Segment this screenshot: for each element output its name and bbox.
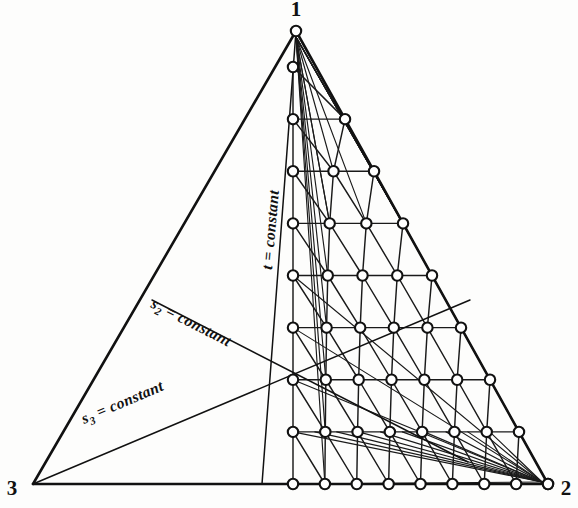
lattice-node (288, 166, 298, 176)
lattice-node (389, 322, 399, 332)
right-fan-line (315, 432, 542, 482)
lattice-node (288, 218, 298, 228)
vertex-label-3: 3 (7, 476, 18, 500)
lattice-node (321, 375, 331, 385)
apex-fan-line (296, 37, 328, 276)
lattice-node (386, 375, 396, 385)
vertex-label-1: 1 (291, 0, 302, 21)
diagram-canvas: t = constants2 = constants3 = constant 1… (0, 0, 578, 508)
lattice-grid-line (360, 276, 362, 328)
lattice-node (419, 375, 429, 385)
lattice-node (422, 322, 432, 332)
lattice-grid-line (326, 328, 327, 380)
lattice-grid-line (424, 328, 427, 380)
lattice-grid-line (487, 432, 516, 484)
lattice-node (415, 479, 425, 489)
ternary-diagram-figure: t = constants2 = constants3 = constant 1… (0, 0, 578, 508)
lattice-grid-line (330, 171, 334, 223)
lattice-grid-line (487, 380, 490, 432)
lattice-node (288, 427, 298, 437)
lattice-node (479, 479, 489, 489)
lattice-node (456, 322, 466, 332)
lattice-grid-line (422, 432, 452, 484)
vertex-node (543, 479, 553, 489)
edge-1-3 (33, 31, 296, 484)
lattice-grid-line (363, 223, 367, 275)
lattice-node (352, 427, 362, 437)
lattice-node (288, 375, 298, 385)
lattice-node (369, 166, 379, 176)
lattice-node (449, 427, 459, 437)
lattice-node (511, 479, 521, 489)
lattice-node (361, 218, 371, 228)
lattice-node (447, 479, 457, 489)
right-fan-line (359, 432, 542, 482)
lattice-grid-line (357, 432, 358, 484)
lattice-node (288, 479, 298, 489)
lattice-node (385, 427, 395, 437)
lattice-grid-line (422, 380, 424, 432)
lattice-grid-line (293, 380, 325, 432)
lattice-grid-line (392, 380, 423, 432)
lattice-node (353, 375, 363, 385)
lattice-node (392, 270, 402, 280)
lattice-node (485, 375, 495, 385)
lattice-grid-line (392, 328, 394, 380)
lattice-grid-line (397, 223, 403, 275)
lattice-grid-line (358, 432, 389, 484)
lattice-node (340, 114, 350, 124)
lattice-node (514, 427, 524, 437)
lattice-node (452, 375, 462, 385)
lattice-grid-line (394, 276, 397, 328)
vertex-label-2: 2 (561, 476, 572, 500)
s2-line-label: s2 = constant (146, 294, 234, 352)
lattice-grid-line (328, 223, 330, 275)
lattice-grid-line (427, 328, 457, 380)
apex-fan-line (296, 37, 325, 484)
lattice-node (288, 270, 298, 280)
lattice-grid-line (330, 223, 363, 275)
lattice-grid-line (421, 432, 423, 484)
lattice-grid-line (327, 276, 328, 328)
lattice-grid-line (366, 223, 397, 275)
coordinate-label-group: t = constants2 = constants3 = constant (78, 189, 282, 430)
lattice-grid-line (328, 276, 360, 328)
lattice-node (383, 479, 393, 489)
lattice-node (398, 218, 408, 228)
edge-1-2 (296, 31, 548, 484)
lattice-grid-line (363, 276, 394, 328)
lattice-node (357, 270, 367, 280)
lattice-node (427, 270, 437, 280)
lattice-node (288, 322, 298, 332)
lattice-node (328, 166, 338, 176)
lattice-grid-line (326, 380, 358, 432)
lattice-node (417, 427, 427, 437)
lattice-node (482, 427, 492, 437)
lattice-node (320, 427, 330, 437)
vertex-node (291, 26, 301, 36)
lattice-grid-line (359, 380, 390, 432)
lattice-grid-line (325, 380, 326, 432)
lattice-node (320, 479, 330, 489)
lattice-grid-line (366, 171, 374, 223)
lattice-node (352, 479, 362, 489)
lattice-grid-line (359, 328, 361, 380)
lattice-grid-line (293, 432, 325, 484)
lattice-grid-line (457, 328, 461, 380)
lattice-node (288, 62, 298, 72)
lattice-grid-line (427, 276, 432, 328)
lattice-node (355, 322, 365, 332)
lattice-grid-line (452, 432, 454, 484)
lattice-node (323, 270, 333, 280)
lattice-node (321, 322, 331, 332)
lattice-node (288, 114, 298, 124)
lattice-node (324, 218, 334, 228)
lattice-grid-line (454, 380, 457, 432)
